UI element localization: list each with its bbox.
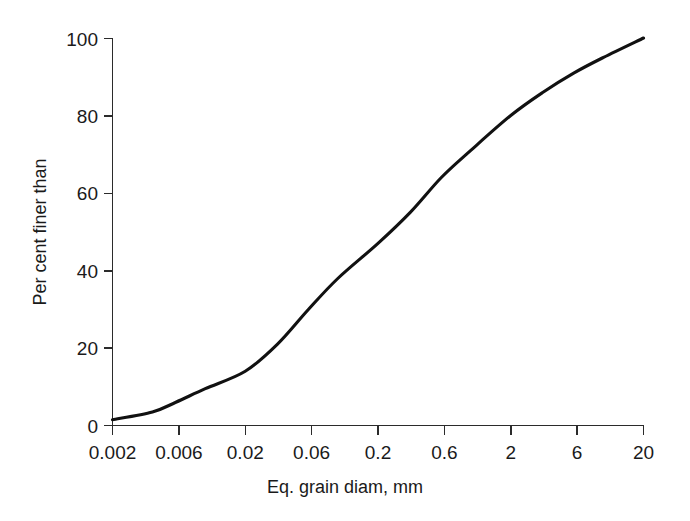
- y-tick-label-40: 40: [77, 261, 98, 282]
- x-axis-title: Eq. grain diam, mm: [267, 477, 423, 497]
- x-axis-ticks: [113, 426, 644, 436]
- y-tick-label-80: 80: [77, 106, 98, 127]
- x-tick-label-2: 2: [506, 442, 517, 463]
- chart-figure: 100 80 60 40 20 0 0.002 0.006 0.02 0.06 …: [0, 0, 690, 521]
- y-axis-ticks: [104, 39, 113, 426]
- x-tick-label-0.06: 0.06: [293, 442, 330, 463]
- x-tick-label-0.002: 0.002: [89, 442, 137, 463]
- x-tick-labels: 0.002 0.006 0.02 0.06 0.2 0.6 2 6 20: [89, 442, 654, 463]
- y-tick-label-100: 100: [66, 29, 98, 50]
- data-curve-grain-size: [113, 38, 644, 420]
- chart-plot-area: 100 80 60 40 20 0 0.002 0.006 0.02 0.06 …: [0, 0, 690, 521]
- x-tick-label-0.6: 0.6: [431, 442, 457, 463]
- x-tick-label-20: 20: [633, 442, 654, 463]
- x-tick-label-6: 6: [572, 442, 583, 463]
- x-tick-label-0.2: 0.2: [365, 442, 391, 463]
- y-tick-label-0: 0: [87, 416, 98, 437]
- y-tick-label-20: 20: [77, 338, 98, 359]
- y-axis-title: Per cent finer than: [30, 158, 50, 305]
- y-tick-labels: 100 80 60 40 20 0: [66, 29, 98, 437]
- y-tick-label-60: 60: [77, 183, 98, 204]
- x-tick-label-0.006: 0.006: [155, 442, 203, 463]
- x-tick-label-0.02: 0.02: [227, 442, 264, 463]
